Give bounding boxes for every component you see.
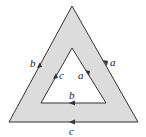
- inner-bottom-label: b: [69, 89, 75, 101]
- inner-left-label: c: [59, 69, 64, 81]
- outer-bottom-label: c: [69, 125, 74, 137]
- outer-left-label: b: [30, 57, 36, 69]
- outer-right-label: a: [110, 56, 116, 68]
- inner-right-label: a: [78, 69, 84, 81]
- triangular-annulus-diagram: b a c c a b: [0, 0, 146, 137]
